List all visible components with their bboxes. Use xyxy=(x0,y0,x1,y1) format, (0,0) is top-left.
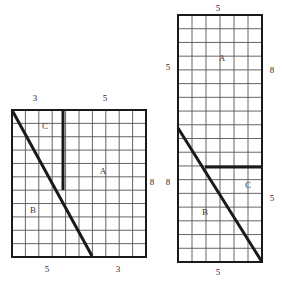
right-figure-region-c: C xyxy=(245,181,251,190)
right-figure-bottom-label-5: 5 xyxy=(216,268,221,277)
right-figure-right-label-8: 8 xyxy=(270,66,275,75)
right-figure-region-a: A xyxy=(219,54,226,63)
right-figure-left-label-8: 8 xyxy=(166,178,171,187)
right-figure-right-label-5: 5 xyxy=(270,194,275,203)
right-figure-region-b: B xyxy=(202,208,208,217)
right-figure-lines xyxy=(0,0,283,281)
right-figure-top-label-5: 5 xyxy=(216,4,221,13)
right-figure-left-label-5: 5 xyxy=(166,63,171,72)
right-figure: 558855ACB xyxy=(0,0,283,281)
diagram-canvas: 35853CAB558855ACB xyxy=(0,0,283,281)
